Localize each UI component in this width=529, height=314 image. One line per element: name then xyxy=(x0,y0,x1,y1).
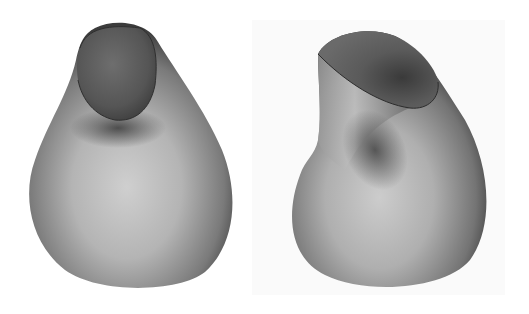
left-surface-panel: 3D shaded surface, pear-shaped body with… xyxy=(0,0,264,314)
right-surface-panel: 3D shaded surface, twisted pear/jug shap… xyxy=(252,20,505,295)
right-surface-render xyxy=(252,20,505,295)
left-surface-render xyxy=(0,0,264,314)
